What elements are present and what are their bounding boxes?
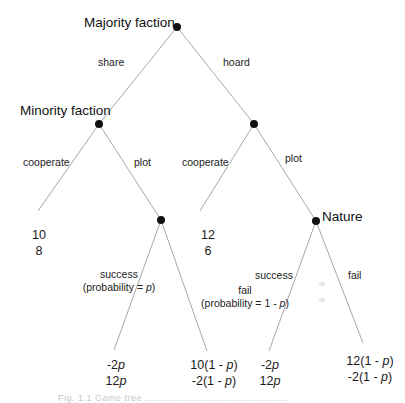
action-label-fail-right: fail bbox=[348, 270, 361, 281]
payoff-hoard-cooperate: 12 6 bbox=[198, 227, 218, 260]
game-tree-edges bbox=[0, 0, 405, 403]
smudge-artifact bbox=[319, 282, 325, 286]
payoff-hoard-plot-success: -2p 12p bbox=[250, 357, 290, 390]
player-label-majority-faction: Majority faction bbox=[84, 16, 175, 30]
payoff-share-plot-success: -2p 12p bbox=[96, 357, 136, 390]
action-label-plot-left: plot bbox=[134, 157, 151, 168]
edge-hoard bbox=[177, 27, 254, 124]
action-label-cooperate-right: cooperate bbox=[182, 157, 229, 168]
edge-plot-right bbox=[254, 124, 316, 221]
smudge-artifact bbox=[319, 298, 325, 302]
chance-label-fail-left: fail (probability = 1 - p) bbox=[186, 284, 304, 310]
player-label-nature: Nature bbox=[322, 210, 363, 224]
action-label-share: share bbox=[98, 57, 124, 68]
probability-fail-left: (probability = 1 - p) bbox=[186, 297, 304, 310]
payoff-share-cooperate: 10 8 bbox=[28, 227, 50, 260]
edge-plot-left bbox=[99, 124, 161, 220]
payoff-hoard-plot-fail: 12(1 - p) -2(1 - p) bbox=[340, 353, 400, 386]
node-hoard-decision bbox=[250, 120, 258, 128]
node-nature-right bbox=[312, 217, 320, 225]
node-minority-faction bbox=[95, 120, 103, 128]
action-label-fail-left: fail bbox=[186, 284, 304, 297]
node-nature-left bbox=[157, 216, 165, 224]
action-label-cooperate-left: cooperate bbox=[23, 157, 70, 168]
probability-success-left: (probability = p) bbox=[66, 281, 172, 294]
action-label-hoard: hoard bbox=[223, 57, 250, 68]
player-label-minority-faction: Minority faction bbox=[20, 104, 111, 118]
payoff-share-plot-fail: 10(1 - p) -2(1 - p) bbox=[184, 357, 244, 390]
action-label-success-left: success bbox=[66, 268, 172, 281]
action-label-plot-right: plot bbox=[285, 153, 302, 164]
chance-label-success-left: success (probability = p) bbox=[66, 268, 172, 294]
figure-caption: Fig. 1.1 Game tree .....................… bbox=[58, 393, 289, 403]
action-label-success-right: success bbox=[255, 270, 293, 281]
